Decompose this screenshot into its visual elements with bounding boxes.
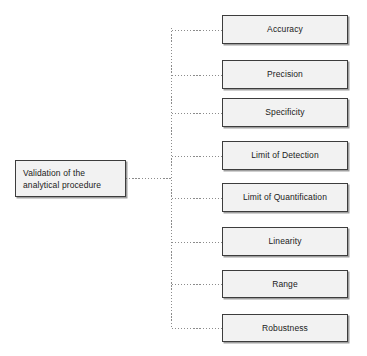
node-label-range: Range xyxy=(223,279,347,290)
node-label-linearity: Linearity xyxy=(223,236,347,247)
node-robustness[interactable]: Robustness xyxy=(222,314,348,342)
node-validation-root[interactable]: Validation of the analytical procedure xyxy=(15,160,126,197)
node-limit-of-detection[interactable]: Limit of Detection xyxy=(222,141,348,170)
node-label-accuracy: Accuracy xyxy=(223,24,347,35)
validation-flow-diagram: Validation of the analytical procedure A… xyxy=(0,0,367,356)
node-label-robustness: Robustness xyxy=(223,323,347,334)
node-precision[interactable]: Precision xyxy=(222,60,348,89)
node-limit-of-quantification[interactable]: Limit of Quantification xyxy=(222,183,348,212)
node-label-precision: Precision xyxy=(223,69,347,80)
node-label-specificity: Specificity xyxy=(223,107,347,118)
node-label-limit-of-detection: Limit of Detection xyxy=(223,150,347,161)
node-linearity[interactable]: Linearity xyxy=(222,227,348,256)
node-label-validation-root: Validation of the analytical procedure xyxy=(23,167,125,191)
node-accuracy[interactable]: Accuracy xyxy=(222,15,348,44)
connector-lines xyxy=(126,28,222,329)
node-label-limit-of-quantification: Limit of Quantification xyxy=(223,192,347,203)
node-range[interactable]: Range xyxy=(222,270,348,298)
node-specificity[interactable]: Specificity xyxy=(222,98,348,127)
